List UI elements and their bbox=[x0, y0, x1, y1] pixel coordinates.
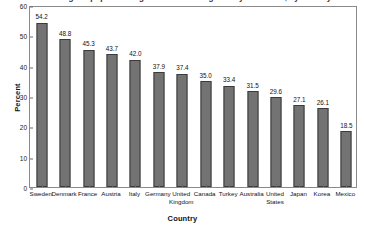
x-tick-mark bbox=[323, 184, 324, 187]
bar[interactable] bbox=[130, 60, 141, 187]
x-tick-label: Mexico bbox=[330, 190, 360, 198]
bar-value-label: 33.4 bbox=[223, 77, 235, 83]
bar-value-label: 31.5 bbox=[246, 83, 258, 89]
bar-value-label: 26.1 bbox=[317, 100, 329, 106]
bar-value-label: 48.8 bbox=[59, 31, 71, 37]
bar-value-label: 54.2 bbox=[36, 14, 48, 20]
bar[interactable] bbox=[341, 131, 352, 187]
y-tick-label: 20 bbox=[20, 125, 27, 132]
y-tick-label: 40 bbox=[20, 64, 27, 71]
x-tick-mark bbox=[65, 184, 66, 187]
x-tick-mark bbox=[112, 184, 113, 187]
x-tick-mark bbox=[253, 184, 254, 187]
y-tick-label: 30 bbox=[20, 95, 27, 102]
bar-value-label: 27.1 bbox=[293, 97, 305, 103]
bar[interactable] bbox=[153, 72, 164, 187]
bar[interactable] bbox=[294, 105, 305, 187]
x-tick-mark bbox=[276, 184, 277, 187]
bar-slot: 54.2 bbox=[30, 7, 53, 187]
y-tick-label: 50 bbox=[20, 34, 27, 41]
bar[interactable] bbox=[317, 108, 328, 187]
bar-value-label: 37.9 bbox=[153, 64, 165, 70]
chart-figure: Percentage of population aged 25-64 atta… bbox=[0, 0, 365, 229]
bar-value-label: 43.7 bbox=[106, 46, 118, 52]
bar-slot: 43.7 bbox=[100, 7, 123, 187]
bar-slot: 27.1 bbox=[288, 7, 311, 187]
bar-value-label: 37.4 bbox=[176, 65, 188, 71]
bar[interactable] bbox=[270, 97, 281, 187]
x-tick-mark bbox=[182, 184, 183, 187]
x-tick-mark bbox=[159, 184, 160, 187]
bar-value-label: 18.5 bbox=[340, 123, 352, 129]
chart-title: Percentage of population aged 25-64 atta… bbox=[0, 0, 365, 2]
y-tick-label: 60 bbox=[20, 4, 27, 11]
bar-slot: 35.0 bbox=[194, 7, 217, 187]
bar-slot: 26.1 bbox=[311, 7, 334, 187]
bar[interactable] bbox=[200, 81, 211, 187]
bar-slot: 37.9 bbox=[147, 7, 170, 187]
bar-slot: 31.5 bbox=[241, 7, 264, 187]
bar[interactable] bbox=[36, 23, 47, 187]
x-tick-mark bbox=[299, 184, 300, 187]
bar-slot: 48.8 bbox=[53, 7, 76, 187]
bar[interactable] bbox=[83, 50, 94, 187]
bar-value-label: 29.6 bbox=[270, 89, 282, 95]
bar[interactable] bbox=[247, 91, 258, 187]
x-tick-mark bbox=[135, 184, 136, 187]
x-axis-title: Country bbox=[0, 214, 365, 223]
bar[interactable] bbox=[177, 74, 188, 187]
bar-slot: 37.4 bbox=[171, 7, 194, 187]
bar-slot: 29.6 bbox=[264, 7, 287, 187]
plot-area: 010203040506054.248.845.343.742.037.937.… bbox=[29, 6, 357, 188]
bar-slot: 42.0 bbox=[124, 7, 147, 187]
x-tick-mark bbox=[346, 184, 347, 187]
bar-value-label: 42.0 bbox=[129, 51, 141, 57]
bar-value-label: 35.0 bbox=[200, 73, 212, 79]
bar-slot: 33.4 bbox=[217, 7, 240, 187]
bar[interactable] bbox=[60, 39, 71, 187]
bar-value-label: 45.3 bbox=[82, 41, 94, 47]
x-tick-mark bbox=[229, 184, 230, 187]
bar-slot: 18.5 bbox=[335, 7, 358, 187]
bar[interactable] bbox=[224, 86, 235, 187]
bar[interactable] bbox=[106, 54, 117, 187]
x-tick-mark bbox=[89, 184, 90, 187]
x-tick-mark bbox=[42, 184, 43, 187]
bar-slot: 45.3 bbox=[77, 7, 100, 187]
y-tick-label: 10 bbox=[20, 155, 27, 162]
x-tick-mark bbox=[206, 184, 207, 187]
